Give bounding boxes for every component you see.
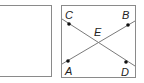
point-d [124, 60, 128, 64]
point-a [66, 59, 70, 63]
point-b [126, 23, 130, 27]
intersecting-lines-diagram: C B E A D [0, 0, 144, 83]
label-c: C [65, 9, 73, 21]
label-b: B [122, 9, 129, 21]
label-a: A [64, 65, 72, 77]
point-c [67, 22, 71, 26]
label-d: D [121, 66, 129, 78]
label-e: E [94, 26, 102, 38]
